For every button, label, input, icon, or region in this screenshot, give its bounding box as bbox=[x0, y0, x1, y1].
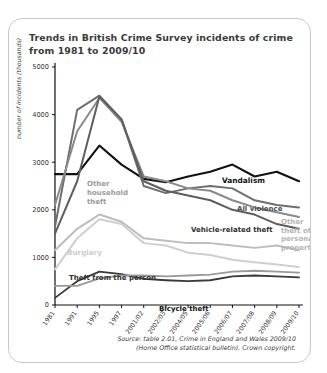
chart-plot-area: 0100020003000400050001981199119951997200… bbox=[9, 19, 311, 363]
x-tick-label: 2001/02 bbox=[124, 310, 145, 335]
x-tick-label: 2002/03 bbox=[146, 310, 167, 335]
source-line-2: (Home Office statistical bulletin). Crow… bbox=[136, 344, 296, 351]
series-annotation: Bicycle theft bbox=[159, 305, 209, 313]
x-tick-label: 2005/06 bbox=[190, 310, 211, 335]
x-tick-label: 1981 bbox=[41, 310, 56, 327]
series-annotation: Other bbox=[87, 180, 110, 188]
series-annotation: Burglary bbox=[67, 248, 102, 257]
y-tick-label: 4000 bbox=[32, 111, 49, 119]
source-note: Source: table 2.01, Crime in England and… bbox=[66, 334, 296, 352]
y-tick-label: 5000 bbox=[32, 63, 49, 71]
series-annotation: Vehicle-related theft bbox=[191, 226, 273, 234]
series-annotation: All violence bbox=[237, 205, 283, 213]
x-tick-label: 1991 bbox=[63, 310, 78, 327]
x-tick-label: 2004/05 bbox=[168, 310, 189, 335]
series-annotation: property bbox=[281, 244, 311, 252]
line-chart: 0100020003000400050001981199119951997200… bbox=[9, 19, 311, 363]
x-tick-label: 1997 bbox=[107, 310, 122, 327]
x-tick-label: 2006/07 bbox=[213, 310, 234, 335]
chart-card: Trends in British Crime Survey incidents… bbox=[8, 18, 311, 363]
series-annotation: Vandalism bbox=[222, 176, 265, 185]
series-annotation: theft bbox=[87, 198, 107, 206]
series-annotation: personal bbox=[281, 235, 311, 243]
series-annotation: Other bbox=[281, 218, 304, 226]
series-annotation: Theft from the person bbox=[69, 274, 156, 282]
series-annotation: theft of bbox=[281, 227, 311, 235]
series-annotation: household bbox=[87, 189, 128, 197]
x-tick-label: 2008/09 bbox=[257, 310, 278, 335]
source-line-1: Source: table 2.01, Crime in England and… bbox=[117, 335, 296, 342]
y-tick-label: 0 bbox=[45, 301, 49, 309]
y-tick-label: 2000 bbox=[32, 206, 49, 214]
y-tick-label: 1000 bbox=[32, 254, 49, 262]
x-tick-label: 2009/10 bbox=[279, 310, 300, 335]
y-tick-label: 3000 bbox=[32, 159, 49, 167]
series-line bbox=[55, 97, 299, 234]
x-tick-label: 2007/08 bbox=[235, 310, 256, 335]
x-tick-label: 1995 bbox=[85, 310, 100, 327]
